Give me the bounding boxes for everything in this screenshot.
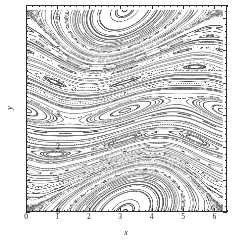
tick-left xyxy=(26,50,30,51)
tick-left xyxy=(26,193,28,194)
tick-bottom xyxy=(202,210,203,212)
tick-top xyxy=(89,5,90,9)
tick-right xyxy=(225,76,227,77)
tick-bottom xyxy=(127,210,128,212)
tick-bottom xyxy=(51,210,52,212)
tick-top xyxy=(51,5,52,7)
tick-right xyxy=(223,83,227,84)
tick-right xyxy=(225,102,227,103)
x-tick-label: 5 xyxy=(181,213,185,221)
tick-bottom xyxy=(164,210,165,212)
tick-left xyxy=(26,18,30,19)
tick-right xyxy=(225,31,227,32)
tick-bottom xyxy=(196,210,197,212)
tick-top xyxy=(227,5,228,7)
tick-right xyxy=(225,11,227,12)
tick-left xyxy=(26,154,28,155)
tick-left xyxy=(26,83,30,84)
tick-left xyxy=(26,180,30,181)
y-tick-label: 2 xyxy=(56,143,60,151)
tick-right xyxy=(225,134,227,135)
tick-right xyxy=(225,63,227,64)
tick-right xyxy=(225,199,227,200)
tick-top xyxy=(170,5,171,7)
x-tick-label: 0 xyxy=(24,213,28,221)
tick-bottom xyxy=(95,210,96,212)
tick-top xyxy=(164,5,165,7)
tick-right xyxy=(223,18,227,19)
tick-top xyxy=(221,5,222,7)
tick-left xyxy=(26,24,28,25)
tick-left xyxy=(26,5,28,6)
tick-left xyxy=(26,134,28,135)
tick-right xyxy=(225,5,227,6)
x-tick-label: 6 xyxy=(213,213,217,221)
tick-right xyxy=(223,115,227,116)
y-axis-title: y xyxy=(5,106,14,110)
tick-right xyxy=(223,50,227,51)
tick-right xyxy=(225,121,227,122)
tick-bottom xyxy=(32,210,33,212)
tick-left xyxy=(26,115,30,116)
tick-right xyxy=(225,37,227,38)
tick-top xyxy=(127,5,128,7)
tick-bottom xyxy=(108,210,109,212)
tick-right xyxy=(225,70,227,71)
y-tick-label: 3 xyxy=(56,111,60,119)
tick-top xyxy=(189,5,190,7)
tick-left xyxy=(26,160,28,161)
tick-left xyxy=(26,11,28,12)
x-tick-label: 2 xyxy=(87,213,91,221)
tick-top xyxy=(133,5,134,7)
tick-top xyxy=(95,5,96,7)
tick-left xyxy=(26,199,28,200)
tick-top xyxy=(158,5,159,7)
tick-top xyxy=(108,5,109,7)
tick-left xyxy=(26,108,28,109)
tick-right xyxy=(225,44,227,45)
tick-left xyxy=(26,70,28,71)
tick-right xyxy=(225,186,227,187)
tick-bottom xyxy=(45,210,46,212)
tick-bottom xyxy=(145,210,146,212)
tick-bottom xyxy=(227,210,228,212)
tick-top xyxy=(202,5,203,7)
tick-left xyxy=(26,96,28,97)
x-axis-title: x xyxy=(124,228,128,237)
tick-left xyxy=(26,173,28,174)
tick-right xyxy=(225,141,227,142)
tick-left xyxy=(26,37,28,38)
tick-top xyxy=(114,5,115,7)
y-tick-label: 0 xyxy=(56,208,60,216)
tick-bottom xyxy=(64,210,65,212)
tick-right xyxy=(225,108,227,109)
tick-right xyxy=(223,212,227,213)
tick-left xyxy=(26,44,28,45)
tick-bottom xyxy=(83,210,84,212)
tick-left xyxy=(26,102,28,103)
tick-top xyxy=(70,5,71,7)
tick-right xyxy=(225,24,227,25)
scatter-plot-figure: 01234560123456 x y xyxy=(0,0,241,247)
tick-bottom xyxy=(189,210,190,212)
tick-left xyxy=(26,76,28,77)
tick-left xyxy=(26,121,28,122)
tick-top xyxy=(177,5,178,7)
tick-left xyxy=(26,57,28,58)
tick-right xyxy=(225,167,227,168)
tick-top xyxy=(139,5,140,7)
tick-left xyxy=(26,147,30,148)
tick-bottom xyxy=(158,210,159,212)
tick-bottom xyxy=(39,210,40,212)
x-tick-label: 4 xyxy=(150,213,154,221)
tick-right xyxy=(225,160,227,161)
tick-right xyxy=(225,57,227,58)
tick-top xyxy=(76,5,77,7)
tick-top xyxy=(196,5,197,7)
tick-top xyxy=(183,5,184,9)
tick-top xyxy=(39,5,40,7)
tick-top xyxy=(45,5,46,7)
tick-top xyxy=(214,5,215,9)
tick-bottom xyxy=(76,210,77,212)
tick-right xyxy=(225,89,227,90)
